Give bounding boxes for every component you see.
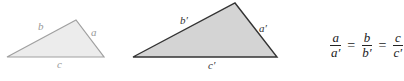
proportion-equation: a a′ = b b′ = c c′ [329, 31, 404, 60]
small-side-a-label: a [91, 26, 97, 38]
fraction-b: b b′ [360, 31, 373, 60]
equals-sign: = [379, 38, 387, 54]
denominator: b′ [360, 46, 373, 60]
large-side-a-label: a′ [259, 22, 267, 34]
small-triangle [7, 20, 104, 57]
large-side-b-label: b′ [180, 14, 188, 26]
denominator: a′ [329, 46, 342, 60]
small-side-c-label: c [57, 58, 62, 70]
numerator: c [393, 31, 403, 46]
numerator: b [362, 31, 373, 46]
large-triangle [133, 3, 277, 57]
fraction-c: c c′ [392, 31, 404, 60]
denominator: c′ [392, 46, 404, 60]
small-side-b-label: b [38, 20, 44, 32]
numerator: a [330, 31, 341, 46]
fraction-a: a a′ [329, 31, 342, 60]
large-side-c-label: c′ [208, 59, 215, 71]
equals-sign: = [347, 38, 355, 54]
